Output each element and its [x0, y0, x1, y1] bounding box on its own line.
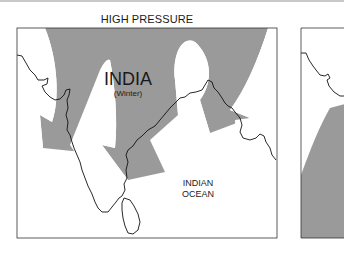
sri-lanka-outline	[122, 198, 140, 234]
shaded-area	[301, 104, 344, 238]
second-panel-coastline	[301, 53, 344, 96]
monsoon-map	[0, 0, 344, 253]
wind-arrow-band	[40, 28, 268, 180]
winter-panel	[17, 28, 277, 238]
region-label: INDIA	[88, 70, 168, 88]
ocean-label-line2: OCEAN	[168, 189, 228, 200]
ocean-label-line1: INDIAN	[168, 178, 228, 189]
second-panel	[301, 53, 344, 238]
season-label: (Winter)	[88, 90, 168, 98]
ocean-label: INDIAN OCEAN	[168, 178, 228, 200]
